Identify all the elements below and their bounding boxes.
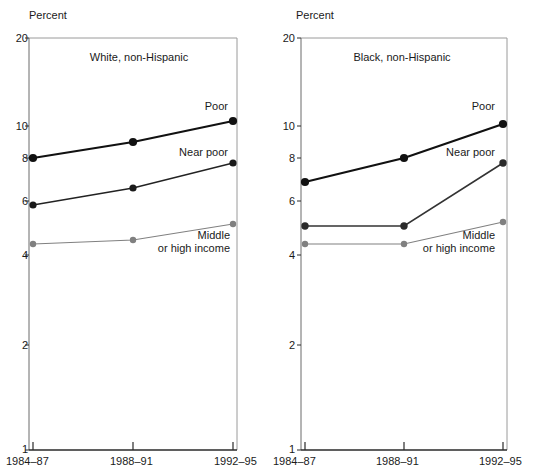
series-poor bbox=[29, 117, 237, 162]
x-axis-ticks bbox=[305, 442, 503, 450]
series-near-poor bbox=[29, 159, 236, 208]
figure-two-panel-line-chart: Percent White, non-Hispanic 20 10 8 6 4 … bbox=[0, 0, 535, 475]
panel-black-non-hispanic: Percent Black, non-Hispanic 20 10 8 6 4 … bbox=[267, 0, 535, 475]
series-near-poor bbox=[301, 159, 506, 229]
plot-area-right bbox=[267, 0, 535, 475]
y-axis-ticks bbox=[297, 38, 301, 450]
series-poor bbox=[301, 120, 507, 186]
series-middle-or-high-income bbox=[30, 221, 236, 247]
y-axis-ticks bbox=[25, 38, 29, 450]
axes-frame bbox=[29, 38, 237, 450]
plot-area-left bbox=[0, 0, 268, 475]
x-axis-ticks bbox=[33, 442, 233, 450]
panel-white-non-hispanic: Percent White, non-Hispanic 20 10 8 6 4 … bbox=[0, 0, 268, 475]
